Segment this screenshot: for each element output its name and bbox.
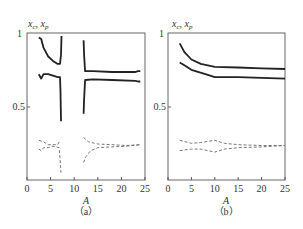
- x-tick-label: 5: [48, 183, 53, 194]
- panel-a-caption: （a）: [74, 206, 98, 217]
- x-tick-label: 15: [233, 183, 243, 194]
- x-tick-label: 15: [93, 183, 103, 194]
- series-line: [84, 145, 141, 163]
- panel-b-ytick-05: 0.5: [154, 101, 167, 112]
- panel-a-plot: [39, 36, 141, 173]
- x-tick-label: 20: [257, 183, 267, 194]
- series-line: [180, 146, 285, 153]
- panel-b-plot: [180, 43, 285, 152]
- x-tick-label: 20: [116, 183, 126, 194]
- panel-a-ytick-05: 0.5: [13, 101, 26, 112]
- series-line: [84, 79, 141, 114]
- panel-b: xc, xp 1 0.5 0510152025 A （b）: [154, 18, 291, 217]
- series-line: [180, 62, 285, 78]
- x-tick-label: 0: [25, 183, 30, 194]
- panel-b-xlabel: A: [222, 195, 230, 206]
- series-line: [84, 40, 141, 72]
- panel-b-caption: （b）: [214, 206, 239, 217]
- x-tick-label: 10: [69, 183, 79, 194]
- series-line: [39, 146, 61, 173]
- series-line: [180, 43, 285, 69]
- panel-b-ytick-1: 1: [159, 28, 164, 39]
- x-tick-label: 0: [166, 183, 171, 194]
- series-line: [39, 74, 61, 121]
- panel-b-ylabel: xc, xp: [171, 18, 193, 31]
- panel-a-xlabel: A: [82, 195, 90, 206]
- panel-b-frame: [168, 33, 285, 180]
- x-tick-label: 25: [280, 183, 290, 194]
- series-line: [180, 140, 285, 145]
- x-tick-label: 5: [189, 183, 194, 194]
- panel-a: xc, xp 1 0.5 0510152025 A （a）: [13, 18, 151, 217]
- x-tick-label: 25: [140, 183, 150, 194]
- panel-a-ylabel: xc, xp: [27, 18, 49, 31]
- x-tick-label: 10: [210, 183, 220, 194]
- panel-a-ytick-1: 1: [17, 28, 22, 39]
- series-line: [84, 137, 141, 145]
- series-line: [39, 140, 60, 144]
- figure: xc, xp 1 0.5 0510152025 A （a） xc, xp 1 0…: [0, 0, 303, 229]
- series-line: [39, 36, 62, 64]
- panel-a-frame: [27, 33, 145, 180]
